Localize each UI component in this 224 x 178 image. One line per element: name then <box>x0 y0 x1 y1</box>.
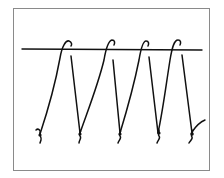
knot-2 <box>78 130 81 143</box>
loop-2-rise <box>80 40 115 133</box>
knot-3 <box>118 130 122 143</box>
loop-4-descend <box>182 55 192 133</box>
loop-2-descend <box>113 60 120 133</box>
loop-1-rise <box>40 41 72 134</box>
end-tail <box>192 120 205 132</box>
stitch-drawing <box>0 0 224 178</box>
loop-3-rise <box>120 41 149 133</box>
diagram-canvas <box>0 0 224 178</box>
loop-1-descend <box>71 56 80 133</box>
loop-4-rise <box>158 40 181 133</box>
horizontal-bar-line <box>22 49 202 50</box>
loop-3-descend <box>149 57 158 133</box>
knot-1 <box>36 129 42 143</box>
